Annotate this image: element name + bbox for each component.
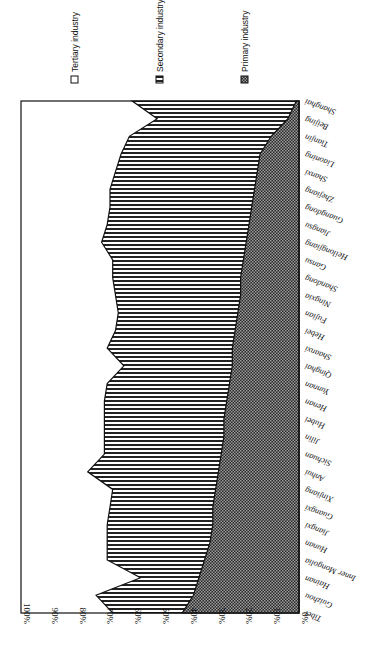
category-label: Qinghai (303, 362, 333, 381)
legend-label: Tertiary industry (70, 11, 80, 72)
category-label: Hubei (303, 415, 327, 432)
category-label: Shanxi (303, 168, 329, 186)
value-tick-label: 100% (22, 603, 32, 625)
category-label: Hunan (303, 539, 329, 557)
category-label: Yunnan (303, 380, 330, 398)
striped-square-icon (156, 76, 163, 83)
category-label: Shaanxi (303, 344, 333, 363)
category-label: Jiangsu (303, 221, 331, 239)
category-label: Jilin (303, 433, 321, 448)
category-label: Sichuan (303, 450, 332, 469)
value-tick-label: 30% (217, 608, 227, 625)
category-label: Beijing (303, 115, 330, 133)
category-label: Tianjin (303, 132, 329, 150)
category-label: Guizhou (303, 591, 333, 610)
value-tick-label: 20% (244, 608, 254, 625)
plot-area (21, 101, 299, 613)
value-tick-label: 50% (161, 608, 171, 625)
category-label: Guangxi (303, 503, 335, 523)
category-label: Shanghai (303, 97, 337, 118)
category-axis: ShanghaiBeijingTianjinLiaoningShanxiZhej… (303, 97, 358, 624)
category-label: Shandong (303, 274, 338, 295)
legend-item: Primary industry (240, 10, 250, 83)
value-tick-label: 90% (50, 608, 60, 625)
chart-canvas: Tertiary industrySecondary industryPrima… (0, 0, 369, 659)
category-label: Fujian (303, 309, 329, 326)
checker-square-icon (241, 76, 248, 83)
value-tick-label: 70% (105, 608, 115, 625)
legend-item: Secondary industry (155, 0, 165, 83)
category-label: Hebei (303, 326, 327, 343)
category-label: Henan (303, 397, 329, 414)
white-square-icon (71, 76, 78, 83)
category-label: Jiangxi (303, 521, 331, 539)
legend-label: Primary industry (240, 10, 250, 72)
category-label: Hainan (303, 574, 331, 592)
category-label: Anhui (303, 468, 327, 485)
category-label: Gansu (303, 256, 327, 273)
stacked-area-chart: Tertiary industrySecondary industryPrima… (0, 0, 369, 659)
value-tick-label: 60% (133, 608, 143, 625)
category-label: Xinjiang (303, 486, 335, 506)
category-label: Ningxia (303, 291, 333, 310)
category-label: Zhejiang (303, 185, 335, 205)
category-label: Liaoning (303, 150, 336, 170)
value-tick-label: 10% (272, 608, 282, 625)
legend: Tertiary industrySecondary industryPrima… (70, 0, 250, 83)
legend-item: Tertiary industry (70, 11, 80, 83)
legend-label: Secondary industry (155, 0, 165, 72)
value-tick-label: 80% (78, 608, 88, 625)
value-tick-label: 40% (189, 608, 199, 625)
